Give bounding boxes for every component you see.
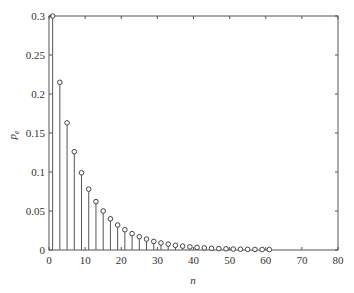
data-stems xyxy=(50,14,271,252)
svg-text:20: 20 xyxy=(116,254,128,266)
svg-text:0: 0 xyxy=(46,254,52,266)
svg-text:40: 40 xyxy=(188,254,200,266)
svg-text:70: 70 xyxy=(296,254,308,266)
svg-text:0.2: 0.2 xyxy=(31,88,45,100)
svg-text:0.3: 0.3 xyxy=(31,10,45,22)
svg-text:60: 60 xyxy=(260,254,272,266)
svg-text:0.15: 0.15 xyxy=(26,127,46,139)
svg-text:0.05: 0.05 xyxy=(26,205,46,217)
svg-text:10: 10 xyxy=(80,254,92,266)
stem-chart: 01020304050607080 00.050.10.150.20.250.3… xyxy=(0,0,354,293)
svg-text:pe: pe xyxy=(6,130,21,141)
svg-text:80: 80 xyxy=(333,254,345,266)
svg-text:50: 50 xyxy=(224,254,236,266)
plot-area xyxy=(49,16,338,250)
svg-text:0: 0 xyxy=(40,244,46,256)
x-axis-label: n xyxy=(190,274,196,286)
y-axis-ticks: 00.050.10.150.20.250.3 xyxy=(26,10,338,256)
y-axis-label: pe xyxy=(6,130,21,141)
svg-text:30: 30 xyxy=(152,254,164,266)
svg-text:0.25: 0.25 xyxy=(26,49,46,61)
svg-text:0.1: 0.1 xyxy=(31,166,45,178)
x-axis-ticks: 01020304050607080 xyxy=(46,16,344,266)
